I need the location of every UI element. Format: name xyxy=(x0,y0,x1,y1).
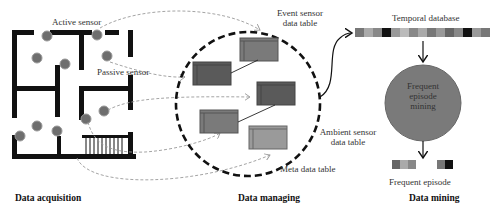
temporal-db-cell xyxy=(391,28,400,37)
active-sensor-label: Active sensor xyxy=(52,17,101,27)
passive-sensor-icon xyxy=(32,53,42,63)
temporal-db-cell xyxy=(445,28,454,37)
temporal-db-cell xyxy=(454,28,463,37)
passive-sensor-icon xyxy=(52,126,62,136)
section-title-mining: Data mining xyxy=(409,193,459,203)
fem-label-line: Frequent xyxy=(393,81,453,91)
flow-arrow-to-temporal-db xyxy=(320,33,352,97)
passive-sensor-icon xyxy=(102,51,112,61)
active-sensor-icon xyxy=(92,30,102,40)
table-icon xyxy=(193,62,231,85)
temporal-db-cell xyxy=(472,28,481,37)
passive-sensor-icon xyxy=(81,114,91,124)
episode-cell xyxy=(392,160,400,169)
sensors xyxy=(15,30,112,141)
event-table-label: Event sensor data table xyxy=(265,8,335,28)
stairs xyxy=(86,138,122,154)
frequent-episode-blocks xyxy=(392,160,453,169)
temporal-db-cell xyxy=(364,28,373,37)
temporal-database-bar xyxy=(355,28,490,37)
passive-sensor-icon xyxy=(99,106,109,116)
ambient-table-label-line: data table xyxy=(312,137,384,147)
temporal-db-cell xyxy=(409,28,418,37)
temporal-db-cell xyxy=(382,28,391,37)
temporal-db-cell xyxy=(481,28,490,37)
event-table-label-line: Event sensor xyxy=(265,8,335,18)
meta-data-table-icon xyxy=(249,126,287,149)
ambient-sensor-table-icon xyxy=(257,82,295,105)
event-sensor-table-icon xyxy=(240,38,278,61)
table-icon xyxy=(200,110,238,133)
passive-sensor-icon xyxy=(15,131,25,141)
ambient-table-label-line: Ambient sensor xyxy=(312,127,384,137)
active-sensor-icon xyxy=(42,31,52,41)
ambient-table-label: Ambient sensor data table xyxy=(312,127,384,147)
temporal-db-cell xyxy=(355,28,364,37)
temporal-db-label: Temporal database xyxy=(392,13,460,23)
episode-cell xyxy=(437,160,445,169)
temporal-db-cell xyxy=(373,28,382,37)
floor-plan xyxy=(12,30,136,159)
passive-sensor-icon xyxy=(32,121,42,131)
episode-cell xyxy=(445,160,453,169)
frequent-episode-label: Frequent episode xyxy=(389,177,451,187)
temporal-db-cell xyxy=(463,28,472,37)
passive-sensor-label: Passive sensor xyxy=(97,67,149,77)
passive-sensor-icon xyxy=(60,59,70,69)
temporal-db-cell xyxy=(400,28,409,37)
temporal-db-cell xyxy=(436,28,445,37)
temporal-db-cell xyxy=(418,28,427,37)
section-title-managing: Data managing xyxy=(238,193,300,203)
temporal-db-cell xyxy=(427,28,436,37)
episode-cell xyxy=(408,160,416,169)
data-tables xyxy=(193,38,295,149)
meta-table-label: Meta data table xyxy=(280,164,335,174)
fem-label: Frequent episode mining xyxy=(393,81,453,111)
fem-label-line: mining xyxy=(393,101,453,111)
event-table-label-line: data table xyxy=(265,18,335,28)
section-title-acquisition: Data acquisition xyxy=(15,193,81,203)
fem-label-line: episode xyxy=(393,91,453,101)
episode-cell xyxy=(400,160,408,169)
